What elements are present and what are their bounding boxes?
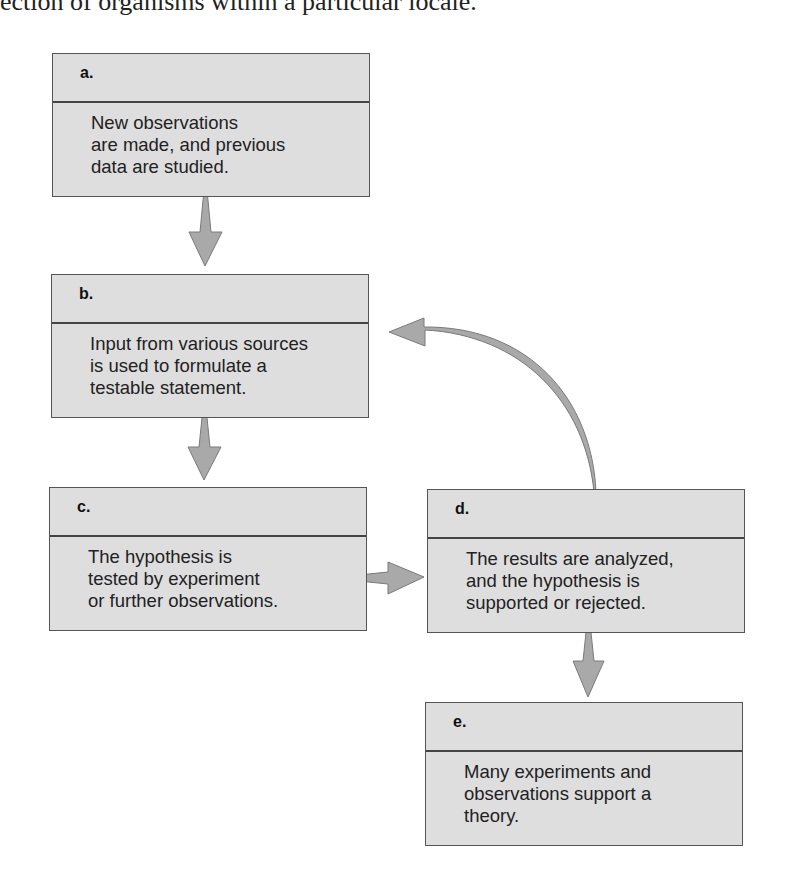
arrow-b-to-c	[188, 408, 221, 480]
step-label: a.	[53, 54, 369, 103]
step-label: e.	[426, 703, 742, 752]
step-box-b: b. Input from various sources is used to…	[51, 274, 369, 418]
step-box-c: c. The hypothesis is tested by experimen…	[49, 487, 367, 631]
step-text: Many experiments and observations suppor…	[426, 752, 742, 827]
arrow-a-to-b	[189, 190, 222, 266]
arrow-d-to-b-curved	[389, 318, 596, 492]
arrow-d-to-e	[573, 623, 604, 697]
step-box-d: d. The results are analyzed, and the hyp…	[427, 489, 745, 633]
step-text: New observations are made, and previous …	[53, 103, 369, 178]
step-box-a: a. New observations are made, and previo…	[52, 53, 370, 197]
step-box-e: e. Many experiments and observations sup…	[425, 702, 743, 846]
step-label: b.	[52, 275, 368, 324]
step-text: The results are analyzed, and the hypoth…	[428, 539, 744, 614]
step-text: Input from various sources is used to fo…	[52, 324, 368, 399]
step-label: d.	[428, 490, 744, 539]
step-label: c.	[50, 488, 366, 537]
step-text: The hypothesis is tested by experiment o…	[50, 537, 366, 612]
